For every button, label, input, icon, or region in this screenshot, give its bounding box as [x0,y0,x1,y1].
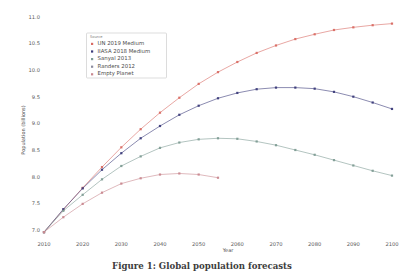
data-point [140,128,142,130]
legend-item-label: IIASA 2018 Medium [98,48,151,54]
x-tick-2070: 2070 [269,241,282,247]
data-point [372,101,374,103]
data-point [294,87,296,89]
series-sanyal-2013 [43,137,393,233]
x-tick-2030: 2030 [115,241,128,247]
data-point [236,92,238,94]
data-point [101,178,103,180]
line-path [44,138,392,232]
data-point [198,173,200,175]
data-point [159,173,161,175]
population-forecast-chart: 7.07.58.08.59.09.510.010.511.0 201020202… [0,0,405,271]
legend-item-randers-2012[interactable]: Randers 2012 [91,63,135,69]
x-tick-2100: 2100 [385,241,398,247]
y-axis-tick-labels: 7.07.58.08.59.09.510.010.511.0 [28,14,40,233]
y-tick-9.5: 9.5 [32,94,40,100]
x-tick-2090: 2090 [347,241,360,247]
data-point [140,137,142,139]
y-tick-11.0: 11.0 [28,14,40,20]
data-point [217,137,219,139]
x-tick-2050: 2050 [192,241,205,247]
y-tick-8.5: 8.5 [32,147,40,153]
data-point [333,159,335,161]
legend-item-label: UN 2019 Medium [98,40,145,46]
data-point [82,187,84,189]
legend-item-empty-planet[interactable]: Empty Planet [91,70,134,77]
data-point [82,203,84,205]
legend-item-label: Randers 2012 [98,63,136,69]
data-point [236,61,238,63]
data-point [140,155,142,157]
data-point [101,169,103,171]
series-iiasa-2018-medium [43,87,393,234]
legend-item-un-2019-medium[interactable]: UN 2019 Medium [91,40,144,46]
data-point [101,166,103,168]
data-point [178,141,180,143]
data-point [352,164,354,166]
legend-marker-icon [91,73,93,75]
data-point [391,175,393,177]
x-tick-2080: 2080 [308,241,321,247]
y-tick-8.0: 8.0 [32,174,40,180]
figure-caption: Figure 1: Global population forecasts [112,261,292,271]
data-point [314,154,316,156]
data-point [275,144,277,146]
data-point [372,170,374,172]
data-point [256,140,258,142]
data-point [159,125,161,127]
y-axis-label: Population (billions) [20,105,27,154]
x-axis-tick-labels: 2010202020302040205020602070208020902100 [37,241,398,247]
data-point [198,138,200,140]
legend-item-iiasa-2018-medium[interactable]: IIASA 2018 Medium [91,48,150,54]
data-point [178,97,180,99]
y-tick-7.5: 7.5 [32,200,40,206]
data-point [159,147,161,149]
chart-legend[interactable]: Source UN 2019 MediumIIASA 2018 MediumSa… [87,33,167,78]
y-tick-10.5: 10.5 [28,40,40,46]
legend-marker-icon [91,43,93,45]
data-point [120,183,122,185]
data-point [256,52,258,54]
data-point [294,38,296,40]
y-tick-7.0: 7.0 [32,227,40,233]
data-point [275,87,277,89]
legend-marker-icon [91,50,93,52]
x-axis-label: Year [222,247,235,253]
data-point [372,24,374,26]
legend-item-sanyal-2013[interactable]: Sanyal 2013 [91,55,131,62]
data-point [62,210,64,212]
data-point [294,149,296,151]
x-tick-2010: 2010 [37,241,50,247]
data-point [159,112,161,114]
data-point [391,108,393,110]
data-point [140,177,142,179]
legend-marker-icon [91,66,93,68]
data-point [256,88,258,90]
data-point [314,33,316,35]
data-point [120,165,122,167]
data-point [178,114,180,116]
line-path [44,173,218,232]
data-point [82,194,84,196]
figure-container: 7.07.58.08.59.09.510.010.511.0 201020202… [0,0,405,271]
line-path [44,88,392,233]
data-point [101,192,103,194]
data-point [352,26,354,28]
data-point [43,231,45,233]
data-point [236,138,238,140]
legend-title: Source [90,35,103,39]
data-point [217,71,219,73]
legend-item-label: Sanyal 2013 [98,55,132,62]
data-point [333,91,335,93]
x-tick-2020: 2020 [76,241,89,247]
legend-marker-icon [91,58,93,60]
data-point [352,96,354,98]
y-tick-10.0: 10.0 [28,67,40,73]
y-tick-9.0: 9.0 [32,120,40,126]
data-point [198,105,200,107]
data-point [391,23,393,25]
data-point [198,83,200,85]
legend-item-label: Empty Planet [98,70,134,77]
data-point [314,88,316,90]
data-point [120,152,122,154]
